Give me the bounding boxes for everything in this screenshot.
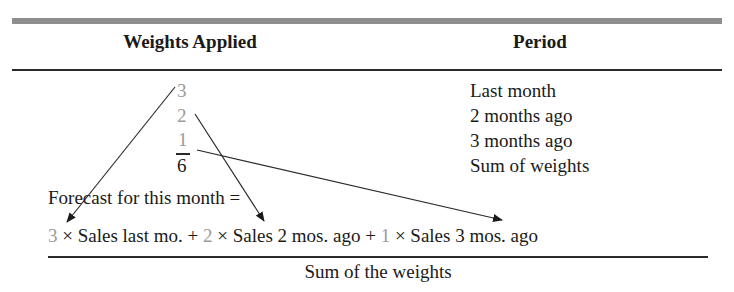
arrow-weight-3 (67, 87, 175, 222)
arrow-weight-1 (197, 150, 502, 220)
arrow-weight-2 (195, 114, 264, 221)
arrows (0, 0, 734, 292)
